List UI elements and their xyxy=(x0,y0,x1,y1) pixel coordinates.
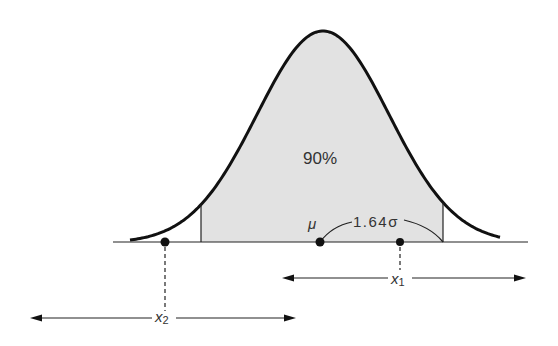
x2-label: x2 xyxy=(154,308,169,326)
x1-label: x1 xyxy=(390,270,405,288)
x1-right-arrowhead-icon xyxy=(514,275,526,282)
x2-right-arrowhead-icon xyxy=(284,315,296,322)
area-label: 90% xyxy=(303,149,337,168)
normal-distribution-diagram: 1.64σ μ 90% x1 x2 xyxy=(0,0,558,346)
mean-label: μ xyxy=(307,215,316,232)
offset-label: 1.64σ xyxy=(353,213,399,230)
x1-point xyxy=(396,238,404,246)
shaded-area-90-percent xyxy=(201,31,443,242)
mean-point xyxy=(316,238,325,247)
x2-point xyxy=(161,238,170,247)
x2-left-arrowhead-icon xyxy=(30,315,42,322)
x1-left-arrowhead-icon xyxy=(282,275,294,282)
